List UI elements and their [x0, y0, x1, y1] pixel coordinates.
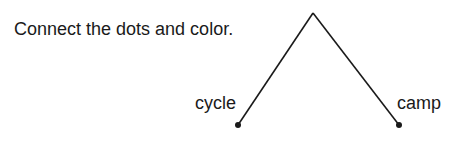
- word-left-label: cycle: [195, 92, 236, 114]
- connect-dots-figure: [0, 0, 463, 144]
- worksheet: Connect the dots and color. cycle camp: [0, 0, 463, 144]
- word-right-label: camp: [397, 92, 441, 114]
- right-line: [313, 13, 399, 125]
- left-dot[interactable]: [235, 122, 241, 128]
- right-dot[interactable]: [396, 122, 402, 128]
- left-line: [238, 13, 313, 125]
